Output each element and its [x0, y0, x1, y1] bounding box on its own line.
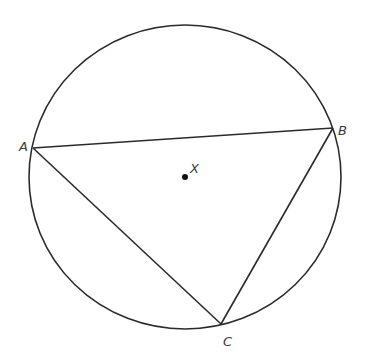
circle-triangle-diagram: A B C X	[0, 0, 367, 364]
diagram-canvas: A B C X	[0, 0, 367, 364]
segment-ab	[33, 128, 333, 148]
label-c: C	[223, 334, 233, 349]
segment-bc	[221, 128, 333, 324]
label-a: A	[18, 139, 28, 154]
center-point-x	[182, 174, 188, 180]
label-b: B	[338, 123, 347, 138]
label-x: X	[189, 161, 200, 176]
